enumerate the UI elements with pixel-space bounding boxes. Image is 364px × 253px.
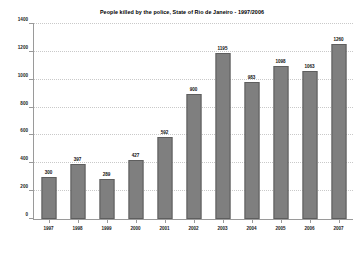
bar-value-label: 1063 [304,64,314,69]
bar-group: 9002002 [179,24,208,219]
x-axis-tick-label: 2002 [188,226,198,231]
x-axis-tick [49,219,50,223]
bar-group: 4272000 [121,24,150,219]
x-axis-tick [252,219,253,223]
bar[interactable] [41,177,56,219]
bar-group: 9832004 [237,24,266,219]
x-axis-tick-label: 2007 [333,226,343,231]
bar[interactable] [331,44,346,220]
bar[interactable] [273,66,288,219]
y-axis-tick-label: 400 [20,156,28,161]
x-axis-tick-label: 2004 [246,226,256,231]
bar-value-label: 983 [248,75,256,80]
x-axis-tick-label: 1997 [43,226,53,231]
bar[interactable] [215,53,230,219]
bar[interactable] [157,137,172,219]
x-axis-tick [281,219,282,223]
x-axis-tick-label: 2001 [159,226,169,231]
bar-value-label: 1195 [218,46,228,51]
y-axis-tick-label: 1200 [18,44,28,49]
x-axis-tick [310,219,311,223]
bar[interactable] [302,71,317,219]
x-axis-tick [107,219,108,223]
bar-group: 10982005 [266,24,295,219]
x-axis-tick [136,219,137,223]
y-axis-tick-label: 0 [25,212,28,217]
bar-value-label: 900 [190,87,198,92]
y-axis-tick-label: 600 [20,128,28,133]
x-axis-tick [78,219,79,223]
x-axis-tick-label: 2005 [275,226,285,231]
bar[interactable] [70,164,85,219]
bar[interactable] [186,94,201,219]
y-axis-tick-label: 1400 [18,17,28,22]
plot-area: 0200400600800100012001400 30019973971998… [33,24,353,220]
bar-chart: People killed by the police, State of Ri… [0,0,364,253]
x-axis-tick [165,219,166,223]
x-axis-tick-label: 2006 [304,226,314,231]
x-axis-tick [194,219,195,223]
y-axis-tick-label: 1000 [18,72,28,77]
bar-value-label: 592 [161,130,169,135]
bar-group: 5922001 [150,24,179,219]
x-axis-tick-label: 2003 [217,226,227,231]
x-axis-tick [339,219,340,223]
bars-layer: 3001997397199828919994272000592200190020… [34,24,353,219]
bar[interactable] [244,82,259,219]
bar-value-label: 397 [74,157,82,162]
bar-value-label: 300 [45,170,53,175]
bar[interactable] [128,160,143,219]
x-axis-tick [223,219,224,223]
x-axis-tick-label: 1999 [101,226,111,231]
chart-title: People killed by the police, State of Ri… [0,9,364,15]
bar-value-label: 427 [132,153,140,158]
x-axis-tick-label: 2000 [130,226,140,231]
bar-group: 11952003 [208,24,237,219]
y-axis-tick-label: 200 [20,184,28,189]
bar-value-label: 1260 [333,37,343,42]
x-axis-tick-label: 1998 [72,226,82,231]
bar-group: 3001997 [34,24,63,219]
y-axis-tick-label: 800 [20,100,28,105]
bar-group: 2891999 [92,24,121,219]
bar[interactable] [99,179,114,219]
bar-value-label: 1098 [275,59,285,64]
bar-value-label: 289 [103,172,111,177]
bar-group: 3971998 [63,24,92,219]
bar-group: 10632006 [295,24,324,219]
bar-group: 12602007 [324,24,353,219]
